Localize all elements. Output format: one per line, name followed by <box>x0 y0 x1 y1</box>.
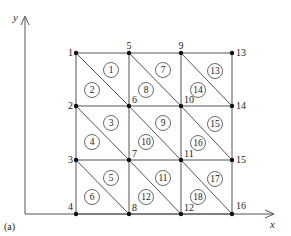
node-dot-icon <box>74 51 78 55</box>
mesh-diagonal-line <box>76 106 129 160</box>
element-number: 10 <box>141 137 151 147</box>
element-number: 18 <box>193 192 203 202</box>
mesh-diagonal-line <box>76 160 129 214</box>
node-number: 16 <box>236 200 246 211</box>
node-dot-icon <box>230 104 234 108</box>
node-dot-icon <box>230 158 234 162</box>
element-number: 6 <box>90 192 95 202</box>
finite-element-mesh-diagram: y x 123456789101112131415161718 12345678… <box>0 0 291 236</box>
node-number: 7 <box>132 148 137 159</box>
node-dot-icon <box>74 212 78 216</box>
node-number: 4 <box>68 201 73 212</box>
node-dot-icon <box>230 212 234 216</box>
node-number: 6 <box>132 94 137 105</box>
node-dot-icon <box>127 158 131 162</box>
element-label: 13 <box>208 64 223 79</box>
element-number: 17 <box>210 174 220 184</box>
element-number: 15 <box>210 119 220 129</box>
element-number: 14 <box>193 85 203 95</box>
node-dot-icon <box>74 158 78 162</box>
element-label: 6 <box>85 190 100 205</box>
node-number: 11 <box>184 148 194 159</box>
node-number: 12 <box>184 202 194 213</box>
node-number: 13 <box>236 47 246 58</box>
panel-label: (a) <box>4 221 15 233</box>
element-number: 9 <box>161 118 166 128</box>
element-label: 1 <box>104 63 119 78</box>
element-label: 2 <box>85 83 100 98</box>
element-label: 7 <box>156 63 171 78</box>
element-label: 5 <box>104 171 119 186</box>
element-label: 4 <box>85 135 100 150</box>
node-dot-icon <box>179 104 183 108</box>
element-number: 13 <box>210 66 220 76</box>
node: 5 <box>127 40 132 55</box>
node-number: 14 <box>236 100 246 111</box>
element-number: 11 <box>158 173 167 183</box>
node-dot-icon <box>127 104 131 108</box>
element-number: 1 <box>109 65 114 75</box>
element-label: 9 <box>156 116 171 131</box>
node-number: 5 <box>127 40 132 51</box>
element-label: 8 <box>139 83 154 98</box>
node-dot-icon <box>179 212 183 216</box>
element-number: 5 <box>109 173 114 183</box>
node-dot-icon <box>127 212 131 216</box>
element-number: 3 <box>109 118 114 128</box>
node-dot-icon <box>179 158 183 162</box>
node-dot-icon <box>230 51 234 55</box>
node-number: 3 <box>68 154 73 165</box>
node: 3 <box>68 154 78 165</box>
element-number: 7 <box>161 65 166 75</box>
node-dot-icon <box>127 51 131 55</box>
node-number: 8 <box>132 202 137 213</box>
node: 2 <box>68 100 78 111</box>
node-number: 1 <box>68 47 73 58</box>
element-label: 11 <box>156 171 171 186</box>
node-number: 15 <box>236 154 246 165</box>
element-label: 10 <box>139 135 154 150</box>
node-number: 9 <box>179 40 184 51</box>
element-label: 15 <box>208 117 223 132</box>
y-axis-label: y <box>12 11 18 23</box>
element-number: 4 <box>90 137 95 147</box>
node-number: 10 <box>184 94 194 105</box>
node-dot-icon <box>74 104 78 108</box>
node: 1 <box>68 47 78 58</box>
element-label: 17 <box>208 172 223 187</box>
element-number: 2 <box>90 85 95 95</box>
node-dot-icon <box>179 51 183 55</box>
x-axis-label: x <box>269 218 275 230</box>
node: 9 <box>179 40 184 55</box>
mesh-lines <box>76 53 232 214</box>
node-number: 2 <box>68 100 73 111</box>
element-number: 16 <box>193 138 203 148</box>
mesh-diagonal-line <box>76 53 129 106</box>
element-number: 12 <box>141 192 151 202</box>
element-labels: 123456789101112131415161718 <box>85 63 223 205</box>
element-number: 8 <box>144 85 149 95</box>
element-label: 12 <box>139 190 154 205</box>
element-label: 3 <box>104 116 119 131</box>
